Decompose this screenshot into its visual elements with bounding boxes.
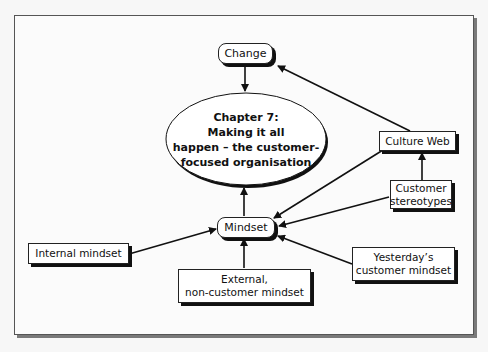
node-external-mindset-line: External, [221, 273, 268, 286]
node-external-mindset: External, non-customer mindset [178, 269, 311, 303]
node-customer-stereotypes: Customer stereotypes [390, 180, 452, 209]
node-internal-mindset: Internal mindset [28, 243, 129, 264]
node-mindset-label: Mindset [224, 221, 267, 234]
central-topic-line: happen – the customer- [173, 140, 319, 155]
node-internal-mindset-label: Internal mindset [35, 247, 121, 260]
arrow-stereotypes-to-mindset [279, 197, 389, 226]
node-customer-stereotypes-line: stereotypes [390, 195, 452, 208]
node-change-label: Change [224, 47, 266, 60]
central-topic-line: focused organisation [181, 155, 312, 170]
central-topic: Chapter 7: Making it all happen – the cu… [166, 95, 326, 185]
arrow-yesterday-to-mindset [278, 236, 352, 264]
node-culture-web-label: Culture Web [385, 135, 449, 148]
central-topic-line: Chapter 7: [213, 110, 278, 125]
central-topic-line: Making it all [208, 125, 285, 140]
node-customer-stereotypes-line: Customer [395, 182, 446, 195]
node-yesterdays-mindset: Yesterday’s customer mindset [352, 247, 455, 281]
node-external-mindset-line: non-customer mindset [185, 286, 304, 299]
arrow-internal-to-mindset [129, 229, 216, 254]
node-yesterdays-mindset-line: Yesterday’s [374, 251, 434, 264]
node-change: Change [218, 43, 273, 64]
node-culture-web: Culture Web [379, 131, 456, 151]
node-mindset: Mindset [217, 217, 275, 238]
node-yesterdays-mindset-line: customer mindset [356, 264, 451, 277]
